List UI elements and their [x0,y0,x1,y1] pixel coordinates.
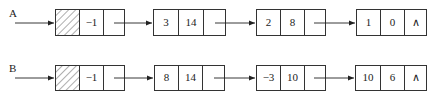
list-node: 3 14 [154,10,226,36]
coef-cell: 1 [366,16,372,28]
exp-cell: 14 [186,16,198,28]
exp-cell: 6 [390,71,396,83]
coef-cell: −1 [86,16,98,28]
list-a: A −1 3 14 2 8 [9,7,427,36]
exp-cell: 0 [390,16,396,28]
exp-cell: 14 [185,71,197,83]
list-node: 1 0 ∧ [357,10,427,36]
list-node: 2 8 [257,10,326,36]
list-node: 10 6 ∧ [356,66,427,91]
hatched-cell [56,10,80,36]
coef-cell: 8 [164,71,170,83]
exp-cell: 8 [290,16,296,28]
coef-cell: 2 [266,16,272,28]
coef-cell: 10 [363,71,375,83]
hatched-cell [56,66,80,91]
list-a-label: A [9,7,17,19]
coef-cell: 3 [163,16,169,28]
coef-cell: −3 [263,71,275,83]
list-b-label: B [9,62,16,74]
head-node: −1 [56,10,125,36]
list-b: B −1 8 14 −3 10 [9,62,427,91]
linked-list-diagram: A −1 3 14 2 8 [0,0,428,106]
null-pointer-icon: ∧ [412,16,420,28]
coef-cell: −1 [86,71,98,83]
null-pointer-icon: ∧ [412,71,420,83]
exp-cell: 10 [287,71,299,83]
